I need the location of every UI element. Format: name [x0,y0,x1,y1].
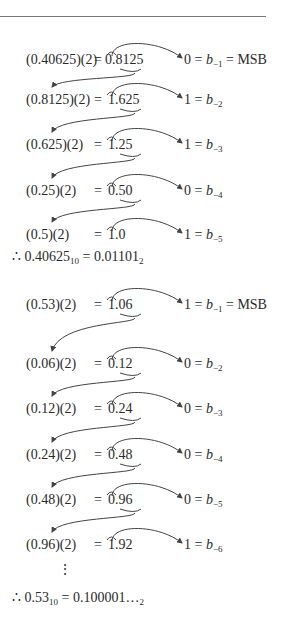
equation-lhs: (0.40625)(2) [26,53,97,67]
carry-arrow [52,158,135,178]
product-result: 1.06 [108,298,133,312]
equation-lhs: (0.53)(2) [26,298,76,312]
bit-index: −2 [213,99,223,109]
product-result: 0.50 [108,184,133,198]
equals-sign: = [94,357,102,371]
bit-index: −5 [213,499,223,509]
bit-symbol: b [206,227,213,242]
bit-index: −4 [213,190,223,200]
fraction-brace [120,464,141,467]
conclusion-value: = 0.01101 [79,249,139,264]
product-result: 1.625 [108,93,140,107]
fraction-brace [120,200,141,203]
fraction-brace [120,154,141,157]
bit-index: −3 [213,408,223,418]
equation-lhs: (0.12)(2) [26,402,76,416]
product-result: 0.12 [108,357,133,371]
carry-arrow [52,204,135,222]
bit-assignment: 0 = b−1 = MSB [184,53,267,67]
bit-symbol: b [206,537,213,552]
equals-sign: = [94,228,102,242]
product-result: 0.8125 [105,53,144,67]
bit-value: 0 [184,492,191,507]
bit-assignment: 1 = b−3 [184,138,222,152]
msb-label: = MSB [222,297,266,312]
product-result: 0.48 [108,448,133,462]
equation-lhs: (0.06)(2) [26,357,76,371]
msb-label: = MSB [222,52,266,67]
conclusion-prefix: ∴ 0.53 [12,590,49,605]
carry-arrow [52,468,135,487]
equation-lhs: (0.24)(2) [26,448,76,462]
equals-sign: = [94,184,102,198]
fraction-brace [120,109,141,112]
product-result: 1.0 [108,228,126,242]
carry-arrow [52,377,135,396]
bit-assignment: 1 = b−6 [184,538,222,552]
equation-lhs: (0.8125)(2) [26,93,90,107]
bit-index: −5 [213,234,223,244]
carry-arrow [52,318,135,351]
product-result: 0.24 [108,402,133,416]
bit-value: 0 [184,447,191,462]
bit-assignment: 1 = b−1 = MSB [184,298,267,312]
equals-sign: = [94,448,102,462]
fraction-brace [120,69,141,72]
bit-symbol: b [206,183,213,198]
base-out: 2 [139,597,144,607]
equation-lhs: (0.625)(2) [26,138,83,152]
base-out: 2 [139,256,144,266]
bit-index: −6 [213,544,223,554]
bit-symbol: b [206,297,213,312]
equals-sign: = [94,402,102,416]
equals-sign: = [94,138,102,152]
bit-symbol: b [206,137,213,152]
carry-arrow [52,113,135,132]
ellipsis: ⋮ [58,567,61,572]
fraction-brace [120,373,141,376]
bit-index: −2 [213,363,223,373]
bit-symbol: b [206,356,213,371]
conclusion: ∴ 0.4062510 = 0.011012 [12,250,143,264]
equation-lhs: (0.25)(2) [26,184,76,198]
equals-sign: = [94,93,102,107]
equals-sign: = [94,298,102,312]
base-in: 10 [49,597,58,607]
bit-symbol: b [206,401,213,416]
product-result: 1.92 [108,538,133,552]
equation-lhs: (0.5)(2) [26,228,69,242]
bit-assignment: 0 = b−4 [184,448,222,462]
bit-assignment: 1 = b−2 [184,93,222,107]
equals-sign: = [94,493,102,507]
product-result: 1.25 [108,138,133,152]
equals-sign: = [94,53,102,67]
bit-assignment: 0 = b−2 [184,357,222,371]
bit-symbol: b [206,447,213,462]
conclusion: ∴ 0.5310 = 0.100001…2 [12,591,144,605]
bit-assignment: 0 = b−4 [184,184,222,198]
equals-sign: = [94,538,102,552]
bit-index: −3 [213,144,223,154]
bit-value: 0 [184,183,191,198]
base-in: 10 [70,256,79,266]
bit-assignment: 0 = b−5 [184,493,222,507]
conclusion-value: = 0.100001… [58,590,139,605]
bit-value: 1 [184,92,191,107]
fraction-brace [120,314,141,317]
carry-arrow [52,513,135,532]
conclusion-prefix: ∴ 0.40625 [12,249,70,264]
bit-index: −4 [213,454,223,464]
bit-value: 0 [184,52,191,67]
product-result: 0.96 [108,493,133,507]
bit-value: 1 [184,537,191,552]
fraction-brace [120,418,141,421]
bit-assignment: 0 = b−3 [184,402,222,416]
bit-value: 0 [184,356,191,371]
equation-lhs: (0.96)(2) [26,538,76,552]
carry-arrow [52,422,135,442]
equation-lhs: (0.48)(2) [26,493,76,507]
bit-value: 1 [184,297,191,312]
bit-symbol: b [206,492,213,507]
bit-symbol: b [206,52,213,67]
bit-symbol: b [206,92,213,107]
